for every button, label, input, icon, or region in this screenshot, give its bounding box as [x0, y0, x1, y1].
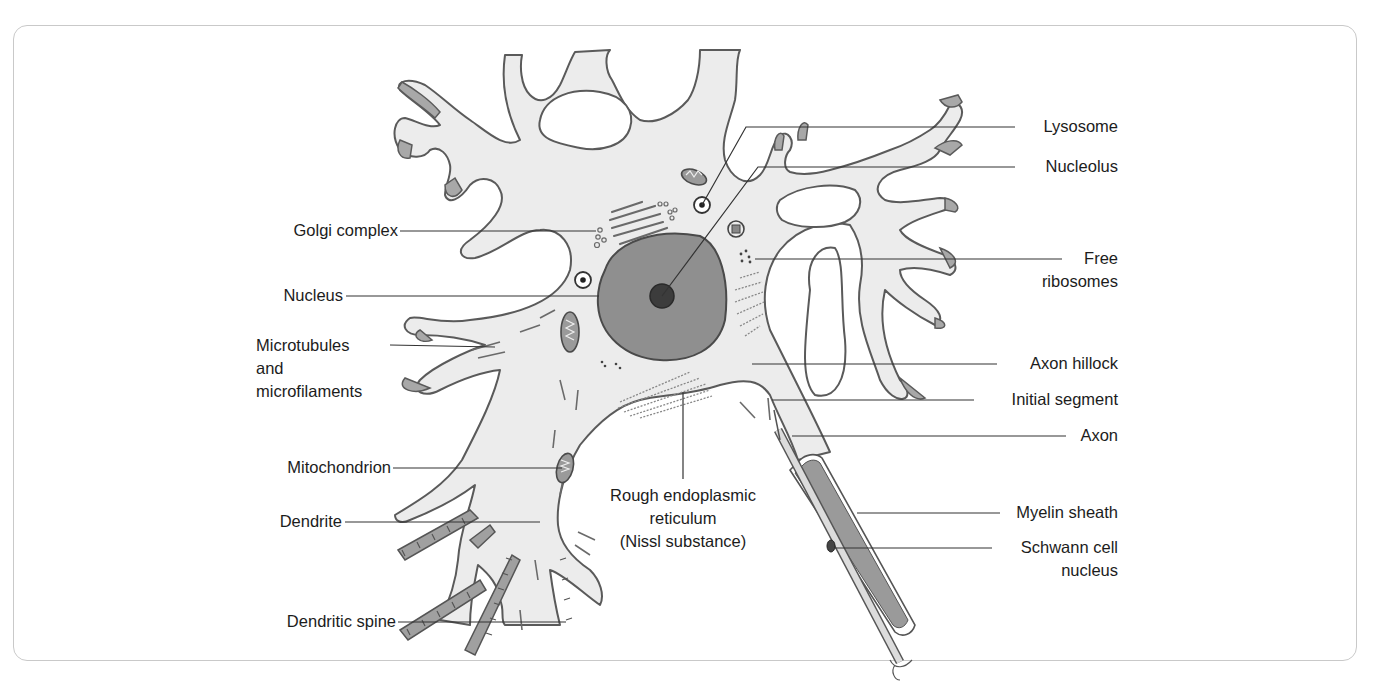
label-axon: Axon [960, 424, 1118, 447]
label-nucleus: Nucleus [230, 284, 343, 307]
label-dendrite: Dendrite [230, 510, 342, 533]
label-mitochondrion: Mitochondrion [230, 456, 391, 479]
schwann-cell-nucleus [827, 540, 835, 552]
nucleus [598, 234, 726, 361]
label-lysosome: Lysosome [960, 115, 1118, 138]
centriole [728, 221, 744, 237]
label-axon-hillock: Axon hillock [960, 352, 1118, 375]
label-microtubules: Microtubules and microfilaments [256, 334, 362, 403]
label-nucleolus: Nucleolus [960, 155, 1118, 178]
label-schwann-cell-nucleus: Schwann cell nucleus [960, 536, 1118, 582]
label-dendritic-spine: Dendritic spine [230, 610, 396, 633]
label-myelin-sheath: Myelin sheath [960, 501, 1118, 524]
label-golgi-complex: Golgi complex [230, 219, 398, 242]
label-free-ribosomes: Free ribosomes [960, 247, 1118, 293]
label-initial-segment: Initial segment [960, 388, 1118, 411]
neuron-illustration [0, 0, 1378, 684]
label-rough-er: Rough endoplasmic reticulum (Nissl subst… [583, 484, 783, 553]
